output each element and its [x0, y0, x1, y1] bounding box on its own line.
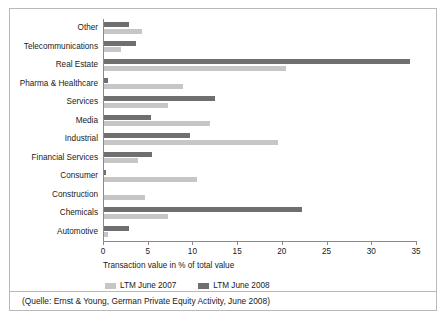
- category-label: Services: [67, 98, 98, 106]
- plot-area: OtherTelecommunicationsReal EstatePharma…: [103, 19, 416, 241]
- bar-2007: [104, 66, 286, 71]
- caption-box: (Quelle: Ernst & Young, German Private E…: [9, 291, 437, 311]
- x-axis-line: [103, 241, 417, 242]
- source-caption: (Quelle: Ernst & Young, German Private E…: [22, 296, 270, 306]
- x-tick-label: 30: [367, 247, 376, 256]
- legend-label: LTM June 2008: [213, 281, 269, 290]
- bar-2007: [104, 140, 278, 145]
- bar-2007: [104, 47, 121, 52]
- x-tick-label: 0: [101, 247, 106, 256]
- legend-item: LTM June 2008: [198, 281, 269, 290]
- legend-label: LTM June 2007: [120, 281, 176, 290]
- category-label: Industrial: [65, 135, 98, 143]
- bar-2007: [104, 121, 210, 126]
- chart-legend: LTM June 2007LTM June 2008: [105, 281, 270, 290]
- bar-2007: [104, 158, 138, 163]
- chart-figure: OtherTelecommunicationsReal EstatePharma…: [9, 8, 437, 311]
- bar-2008: [104, 170, 106, 175]
- x-tick-label: 15: [233, 247, 242, 256]
- bar-2007: [104, 29, 142, 34]
- bar-2008: [104, 133, 190, 138]
- bar-row: Financial Services: [103, 149, 416, 168]
- x-tick: [103, 241, 104, 245]
- x-tick: [416, 241, 417, 245]
- x-tick-label: 25: [322, 247, 331, 256]
- category-label: Financial Services: [32, 154, 98, 162]
- bar-2007: [104, 84, 183, 89]
- category-label: Automotive: [57, 228, 98, 236]
- x-tick-label: 35: [411, 247, 420, 256]
- category-label: Consumer: [60, 172, 98, 180]
- category-label: Chemicals: [60, 209, 98, 217]
- category-label: Construction: [52, 191, 98, 199]
- legend-item: LTM June 2007: [105, 281, 176, 290]
- bar-2008: [104, 226, 129, 231]
- bar-2008: [104, 96, 215, 101]
- x-tick-label: 20: [277, 247, 286, 256]
- bar-2008: [104, 22, 129, 27]
- x-tick: [371, 241, 372, 245]
- bar-row: Construction: [103, 186, 416, 205]
- x-tick-label: 10: [188, 247, 197, 256]
- bar-2008: [104, 152, 152, 157]
- bar-2008: [104, 41, 136, 46]
- bar-row: Industrial: [103, 130, 416, 149]
- x-tick: [282, 241, 283, 245]
- x-tick: [237, 241, 238, 245]
- legend-swatch-icon: [105, 283, 116, 289]
- bar-2007: [104, 177, 197, 182]
- category-label: Other: [78, 24, 98, 32]
- category-label: Real Estate: [56, 61, 98, 69]
- bar-row: Other: [103, 19, 416, 38]
- category-label: Pharma & Healthcare: [20, 80, 98, 88]
- bar-2007: [104, 232, 108, 237]
- x-tick: [148, 241, 149, 245]
- bar-2007: [104, 103, 168, 108]
- x-tick: [192, 241, 193, 245]
- bar-2008: [104, 78, 108, 83]
- bar-2007: [104, 214, 168, 219]
- bar-row: Automotive: [103, 223, 416, 242]
- bar-2008: [104, 59, 410, 64]
- x-axis-label: Transaction value in % of total value: [103, 261, 234, 270]
- bar-row: Chemicals: [103, 204, 416, 223]
- bar-row: Telecommunications: [103, 38, 416, 57]
- category-label: Telecommunications: [24, 43, 98, 51]
- bar-2008: [104, 207, 302, 212]
- bar-row: Consumer: [103, 167, 416, 186]
- x-tick-label: 5: [145, 247, 150, 256]
- bar-2007: [104, 195, 145, 200]
- bar-row: Pharma & Healthcare: [103, 75, 416, 94]
- bar-row: Services: [103, 93, 416, 112]
- bar-row: Media: [103, 112, 416, 131]
- x-tick: [327, 241, 328, 245]
- bar-2008: [104, 115, 151, 120]
- bar-row: Real Estate: [103, 56, 416, 75]
- legend-swatch-icon: [198, 283, 209, 289]
- category-label: Media: [76, 117, 98, 125]
